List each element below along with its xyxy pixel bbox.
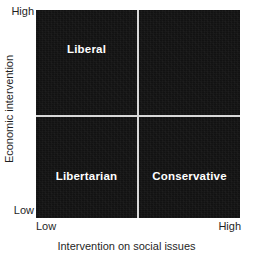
y-axis-tick-low: Low [14,204,34,216]
quadrant-plot-area: Liberal Libertarian Conservative [36,10,240,218]
x-axis-tick-high: High [0,220,241,232]
quadrant-label-libertarian: Libertarian [36,170,137,182]
horizontal-divider-line [36,115,240,117]
vertical-divider-line [137,10,139,218]
y-axis-title-container: Economic intervention [0,0,18,218]
y-axis-title: Economic intervention [3,55,15,163]
quadrant-label-liberal: Liberal [36,43,137,55]
political-quadrant-figure: { "chart_data": { "type": "scatter", "ti… [0,0,253,259]
x-axis-title: Intervention on social issues [0,240,253,252]
y-axis-tick-high: High [11,5,34,17]
quadrant-label-conservative: Conservative [139,170,240,182]
